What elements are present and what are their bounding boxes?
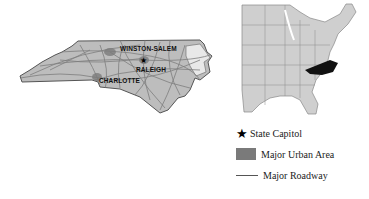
eastern-us-shape — [242, 4, 356, 114]
legend-label: State Capitol — [250, 128, 302, 139]
legend-item-major-roadway: Major Roadway — [236, 170, 328, 181]
urban-area-winston-salem — [104, 48, 116, 56]
city-label-raleigh: RALEIGH — [136, 66, 166, 73]
legend-label: Major Urban Area — [261, 149, 334, 160]
legend-label: Major Roadway — [263, 170, 328, 181]
city-label-charlotte: CHARLOTTE — [99, 77, 140, 84]
capitol-star-icon: ★ — [140, 56, 147, 65]
city-label-winston-salem: WINSTON-SALEM — [120, 45, 177, 52]
legend-item-major-urban-area: Major Urban Area — [236, 148, 334, 160]
urban-area-swatch — [236, 148, 256, 160]
north-carolina-map: ★ — [0, 0, 230, 120]
eastern-us-locator-map — [230, 0, 369, 120]
legend-item-state-capitol: ★ State Capitol — [236, 127, 302, 140]
roadway-line-icon — [236, 175, 258, 176]
star-icon: ★ — [236, 127, 250, 140]
